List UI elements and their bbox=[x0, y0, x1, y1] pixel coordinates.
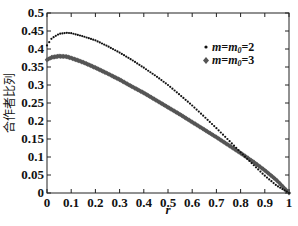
legend-item-m3: m=m0=3 bbox=[212, 53, 254, 68]
y-tick-label: 0.05 bbox=[21, 167, 44, 182]
y-tick-label: 0.25 bbox=[21, 95, 44, 110]
x-tick-label: 0.6 bbox=[184, 195, 201, 210]
y-axis-label: 合作者比列 bbox=[2, 73, 17, 133]
y-tick-label: 0.2 bbox=[28, 113, 44, 128]
x-tick-label: 0.1 bbox=[63, 195, 79, 210]
y-tick-label: 0.15 bbox=[21, 131, 44, 146]
x-tick-label: 1 bbox=[286, 195, 293, 210]
y-tick-label: 0.45 bbox=[21, 23, 44, 38]
x-tick-label: 0.4 bbox=[136, 195, 153, 210]
legend-dot-marker bbox=[204, 45, 207, 48]
x-tick-label: 0.3 bbox=[111, 195, 128, 210]
y-tick-label: 0.35 bbox=[21, 59, 44, 74]
x-tick-label: 0.7 bbox=[208, 195, 225, 210]
y-tick-label: 0.3 bbox=[28, 77, 45, 92]
y-tick-label: 0.5 bbox=[28, 5, 45, 20]
y-tick-label: 0.4 bbox=[28, 41, 45, 56]
x-tick-label: 0.9 bbox=[257, 195, 274, 210]
x-tick-label: 0.8 bbox=[232, 195, 249, 210]
y-tick-label: 0.1 bbox=[28, 149, 44, 164]
x-tick-label: 0.2 bbox=[87, 195, 103, 210]
line-chart: 00.050.10.150.20.250.30.350.40.450.5 00.… bbox=[0, 0, 298, 226]
x-tick-label: 0 bbox=[44, 195, 51, 210]
